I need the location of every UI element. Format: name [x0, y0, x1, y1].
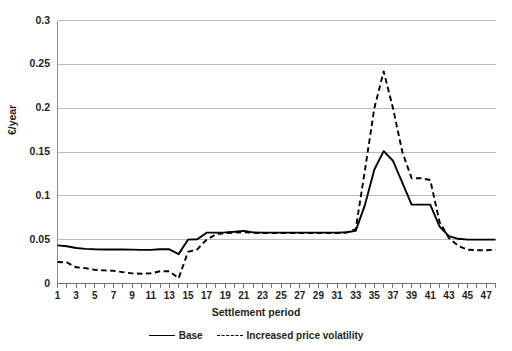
x-tick-label: 3 — [66, 290, 86, 301]
x-tick-label: 37 — [383, 290, 403, 301]
x-tick-marks — [58, 284, 496, 289]
gridlines — [58, 21, 496, 240]
legend-item-increased-price-volatility: Increased price volatility — [217, 330, 364, 341]
x-tick-label: 25 — [271, 290, 291, 301]
x-tick-label: 5 — [85, 290, 105, 301]
legend-label: Increased price volatility — [247, 330, 364, 341]
x-tick-label: 29 — [308, 290, 328, 301]
x-tick-label: 33 — [346, 290, 366, 301]
y-tick-label: 0.2 — [4, 101, 50, 113]
x-tick-label: 41 — [420, 290, 440, 301]
x-tick-label: 47 — [476, 290, 496, 301]
x-tick-label: 31 — [327, 290, 347, 301]
chart-legend: Base Increased price volatility — [0, 330, 512, 341]
x-tick-label: 13 — [159, 290, 179, 301]
y-tick-label: 0.05 — [4, 233, 50, 245]
x-tick-label: 11 — [141, 290, 161, 301]
solid-line-icon — [149, 332, 175, 340]
chart-figure: €/year Settlement period 00.050.10.150.2… — [0, 0, 512, 351]
y-tick-label: 0.3 — [4, 14, 50, 26]
legend-item-base: Base — [149, 330, 203, 341]
x-tick-label: 17 — [197, 290, 217, 301]
y-tick-label: 0.15 — [4, 145, 50, 157]
x-tick-label: 23 — [253, 290, 273, 301]
x-tick-label: 27 — [290, 290, 310, 301]
x-tick-label: 21 — [234, 290, 254, 301]
x-tick-label: 19 — [215, 290, 235, 301]
x-tick-label: 39 — [402, 290, 422, 301]
x-tick-label: 9 — [122, 290, 142, 301]
y-tick-label: 0.1 — [4, 189, 50, 201]
dashed-line-icon — [217, 332, 243, 340]
legend-label: Base — [179, 330, 203, 341]
x-tick-label: 7 — [103, 290, 123, 301]
x-axis-title: Settlement period — [0, 306, 512, 318]
x-tick-label: 43 — [439, 290, 459, 301]
x-tick-label: 1 — [48, 290, 68, 301]
x-tick-label: 35 — [364, 290, 384, 301]
x-tick-label: 15 — [178, 290, 198, 301]
y-tick-label: 0.25 — [4, 57, 50, 69]
series-lines — [58, 71, 496, 278]
x-tick-label: 45 — [458, 290, 478, 301]
y-tick-label: 0 — [4, 277, 50, 289]
